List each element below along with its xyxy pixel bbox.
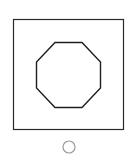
- canvas: [0, 0, 131, 166]
- radio-button-icon[interactable]: [63, 141, 75, 153]
- square-frame[interactable]: [14, 20, 124, 130]
